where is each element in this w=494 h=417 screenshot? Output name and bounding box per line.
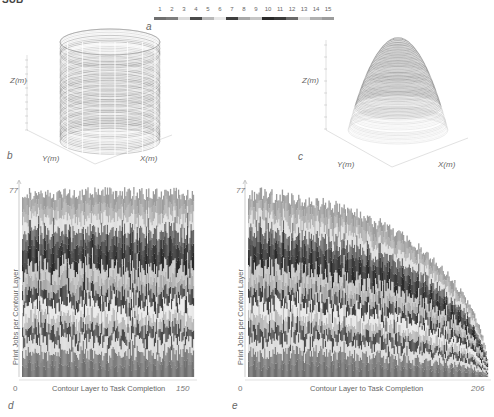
svg-e-bar-segment [250, 320, 251, 338]
svg-d-bar-segment [126, 267, 127, 284]
svg-e-bar-segment [257, 195, 258, 203]
svg-e-bar-segment [436, 369, 437, 377]
svg-e-bar-segment [381, 304, 382, 314]
svg-d-bar-segment [165, 327, 166, 342]
svg-e-bar-segment [399, 287, 400, 298]
svg-d-bar-segment [162, 232, 163, 249]
svg-d-bar-segment [148, 273, 149, 284]
svg-d-bar-segment [178, 217, 179, 233]
svg-d-bar-segment [74, 309, 75, 315]
chart-c-dome [240, 30, 494, 180]
svg-e-bar-segment [374, 358, 375, 371]
svg-e-bar-segment [429, 294, 430, 301]
svg-e-bar-segment [312, 321, 313, 335]
svg-e-bar-segment [462, 311, 463, 318]
svg-e-bar-segment [299, 273, 300, 280]
svg-d-bar-segment [147, 214, 148, 227]
svg-e-bar-segment [451, 369, 452, 377]
svg-d-bar-segment [166, 326, 167, 342]
svg-d-bar-segment [127, 349, 128, 365]
svg-e-bar-segment [288, 285, 289, 295]
svg-e-bar-segment [279, 345, 280, 354]
svg-e-bar-segment [416, 316, 417, 325]
svg-d-bar-segment [84, 353, 85, 361]
svg-e-bar-segment [482, 357, 483, 359]
svg-e-bar-segment [270, 282, 271, 295]
svg-e-bar-segment [384, 222, 385, 231]
svg-d-bar-segment [25, 314, 26, 329]
svg-d-bar-segment [180, 295, 181, 310]
svg-e-bar-segment [303, 240, 304, 256]
svg-d-bar-segment [22, 313, 23, 328]
svg-e-bar-segment [462, 337, 463, 341]
svg-d-bar-segment [61, 349, 62, 364]
svg-e-bar-segment [453, 320, 454, 323]
svg-e-bar-segment [376, 314, 377, 324]
svg-d-bar-segment [31, 227, 32, 240]
svg-d-bar-segment [105, 225, 106, 240]
svg-d-bar-segment [145, 200, 146, 214]
svg-d-bar-segment [189, 265, 190, 278]
svg-d-bar-segment [164, 257, 165, 276]
svg-d-bar-segment [185, 261, 186, 276]
svg-e-bar-segment [409, 324, 410, 333]
svg-e-bar-segment [409, 349, 410, 360]
svg-d-bar-segment [69, 323, 70, 335]
svg-e-bar-segment [307, 363, 308, 377]
svg-d-bar-segment [145, 286, 146, 295]
svg-e-bar-segment [410, 279, 411, 290]
svg-e-bar-segment [304, 223, 305, 236]
svg-d-bar-segment [29, 266, 30, 276]
svg-d-bar-segment [72, 252, 73, 262]
svg-d-bar-segment [134, 360, 135, 369]
svg-e-bar-segment [473, 372, 474, 377]
svg-d-bar-segment [176, 231, 177, 249]
svg-d-bar-segment [181, 357, 182, 365]
svg-d-bar-segment [102, 295, 103, 312]
svg-e-bar-segment [253, 348, 254, 364]
svg-e-bar-segment [410, 242, 411, 248]
svg-e-bar-segment [462, 372, 463, 377]
svg-d-bar-segment [23, 282, 24, 295]
svg-e-bar-segment [459, 312, 460, 320]
svg-d-bar-segment [22, 197, 23, 212]
svg-e-bar-segment [300, 304, 301, 311]
svg-e-bar-segment [346, 281, 347, 295]
svg-e-bar-segment [440, 267, 441, 274]
svg-e-bar-segment [248, 282, 249, 289]
svg-e-bar-segment [369, 363, 370, 377]
svg-e-bar-segment [433, 363, 434, 369]
svg-e-bar-segment [248, 310, 249, 321]
svg-e-bar-segment [437, 311, 438, 320]
svg-d-bar-segment [153, 234, 154, 245]
svg-e-bar-segment [269, 351, 270, 366]
svg-d-bar-segment [111, 259, 112, 276]
svg-e-bar-segment [348, 298, 349, 305]
svg-e-bar-segment [383, 369, 384, 377]
svg-d-bar-segment [170, 265, 171, 277]
svg-e-bar-segment [277, 290, 278, 298]
svg-e-bar-segment [458, 301, 459, 305]
svg-e-bar-segment [431, 279, 432, 286]
svg-d-bar-segment [153, 282, 154, 293]
svg-d-bar-segment [38, 353, 39, 366]
svg-e-bar-segment [352, 233, 353, 240]
svg-d-bar-segment [66, 245, 67, 259]
svg-d-bar-segment [31, 209, 32, 218]
svg-e-bar-segment [347, 259, 348, 273]
svg-d-bar-segment [55, 200, 56, 210]
svg-d-bar-segment [181, 237, 182, 246]
svg-e-bar-segment [316, 321, 317, 331]
svg-d-bar-segment [30, 262, 31, 278]
svg-e-bar-segment [412, 320, 413, 330]
svg-d-bar-segment [23, 327, 24, 336]
svg-e-bar-segment [455, 337, 456, 342]
svg-d-bar-segment [130, 297, 131, 308]
svg-e-bar-segment [445, 329, 446, 338]
svg-e-bar-segment [410, 289, 411, 297]
svg-d-bar-segment [191, 365, 192, 377]
svg-e-bar-segment [452, 290, 453, 297]
svg-e-bar-segment [375, 278, 376, 290]
svg-e-bar-segment [274, 203, 275, 215]
svg-e-bar-segment [433, 273, 434, 283]
